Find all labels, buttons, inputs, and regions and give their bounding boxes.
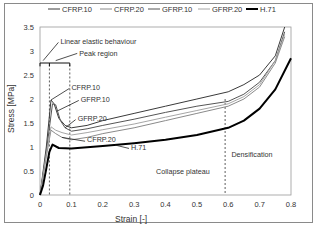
annotation-leader <box>43 42 58 60</box>
legend-label: H.71 <box>260 5 276 14</box>
annotation-leader <box>115 145 129 148</box>
stress-strain-chart: 00.511.522.533.500.10.20.30.40.50.60.70.… <box>0 0 317 227</box>
y-tick-label: 2.5 <box>24 71 34 80</box>
x-tick-label: 0.6 <box>223 200 233 209</box>
annotation-label: H.71 <box>131 143 146 152</box>
annotation-label: CFRP.10 <box>71 83 100 92</box>
x-tick-label: 0.7 <box>254 200 264 209</box>
y-tick-label: 1.5 <box>24 119 34 128</box>
x-tick-label: 0.4 <box>160 200 170 209</box>
legend-label: GFRP.20 <box>212 5 242 14</box>
y-tick-label: 0.5 <box>24 167 34 176</box>
y-tick-label: 3.5 <box>24 23 34 32</box>
annotation-label: Collapse plateau <box>156 167 210 176</box>
x-tick-label: 0 <box>38 200 42 209</box>
legend-label: CFRP.10 <box>62 5 92 14</box>
annotation-label: GFRP.10 <box>81 95 110 104</box>
y-tick-label: 0 <box>30 191 34 200</box>
legend-label: CFRP.20 <box>114 5 144 14</box>
x-axis-label: Strain [-] <box>115 214 147 224</box>
annotation-label: Linear elastic behaviour <box>60 37 137 46</box>
x-tick-label: 0.2 <box>98 200 108 209</box>
legend-label: GFRP.10 <box>162 5 192 14</box>
x-tick-label: 0.1 <box>66 200 76 209</box>
y-tick-label: 1 <box>30 143 34 152</box>
annotation-label: Peak region <box>79 49 117 58</box>
annotation-label: GFRP.20 <box>78 114 107 123</box>
annotation-leader <box>51 88 69 100</box>
annotation-label: Densification <box>231 150 272 159</box>
y-tick-label: 3 <box>30 47 34 56</box>
annotation-leader <box>65 120 76 128</box>
annotation-label: CFRP.20 <box>87 135 116 144</box>
y-axis-label: Stress [MPa] <box>6 84 16 133</box>
x-tick-label: 0.3 <box>129 200 139 209</box>
annotation-leader <box>57 100 79 111</box>
annotation-leader <box>56 53 78 60</box>
x-tick-label: 0.5 <box>192 200 202 209</box>
x-tick-label: 0.8 <box>286 200 296 209</box>
y-tick-label: 2 <box>30 95 34 104</box>
